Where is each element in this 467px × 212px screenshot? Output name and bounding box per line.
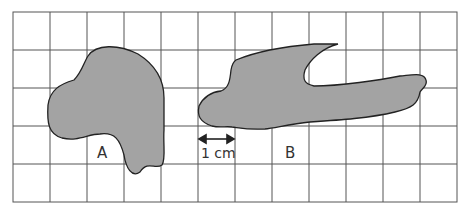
label-a: A [97,144,108,162]
scale-label: 1 cm [201,145,236,161]
grid-diagram: A B 1 cm [0,0,467,212]
label-b: B [285,144,295,162]
shape-b [198,44,426,129]
scale-arrow-icon [199,135,234,143]
